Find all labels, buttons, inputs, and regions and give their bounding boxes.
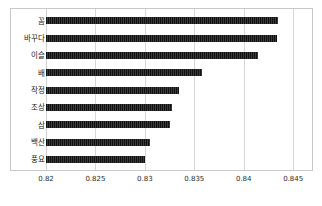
category-label: 배: [0, 69, 45, 79]
bar: [46, 156, 145, 163]
x-tick-label: 0.82: [38, 175, 54, 183]
bar-row: 이슬: [0, 50, 322, 60]
bar: [46, 139, 150, 146]
bar-row: 꼼: [0, 16, 322, 26]
bar-row: 풍요: [0, 154, 322, 164]
bar-row: 조상: [0, 102, 322, 112]
bar-row: 바꾸다: [0, 33, 322, 43]
category-label: 백산: [0, 138, 45, 148]
bar-row: 백산: [0, 137, 322, 147]
x-tick-label: 0.845: [283, 175, 303, 183]
category-label: 작정: [0, 86, 45, 96]
x-tick-label: 0.825: [85, 175, 105, 183]
x-tick-label: 0.84: [236, 175, 252, 183]
bar: [46, 87, 179, 94]
x-tick-label: 0.83: [137, 175, 153, 183]
category-label: 이슬: [0, 51, 45, 61]
category-label: 삼: [0, 121, 45, 131]
category-label: 조상: [0, 103, 45, 113]
category-label: 꼼: [0, 17, 45, 27]
bar-row: 작정: [0, 85, 322, 95]
bar: [46, 121, 170, 128]
x-tick-label: 0.835: [184, 175, 204, 183]
bar-row: 삼: [0, 120, 322, 130]
bar: [46, 35, 277, 42]
bar: [46, 17, 278, 24]
bar: [46, 104, 172, 111]
bar-chart: 꼼바꾸다이슬배작정조상삼백산풍요 0.820.8250.830.8350.840…: [0, 0, 322, 206]
category-label: 바꾸다: [0, 34, 45, 44]
bar: [46, 69, 202, 76]
bar-row: 배: [0, 68, 322, 78]
bar: [46, 52, 258, 59]
category-label: 풍요: [0, 155, 45, 165]
